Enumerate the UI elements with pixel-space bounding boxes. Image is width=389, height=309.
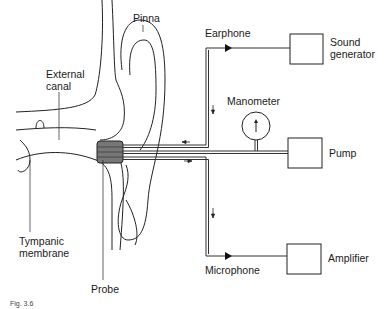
probe-label: Probe bbox=[91, 283, 119, 295]
amplifier-label: Amplifier bbox=[328, 252, 369, 264]
pinna-inner bbox=[130, 40, 156, 150]
pump-label: Pump bbox=[329, 147, 356, 159]
earphone-marker bbox=[225, 44, 232, 52]
earphone-label: Earphone bbox=[205, 27, 251, 39]
neck-front bbox=[96, 160, 112, 250]
microphone-label: Microphone bbox=[205, 264, 260, 276]
canal-lower bbox=[16, 153, 96, 161]
sound-generator-label-2: generator bbox=[330, 48, 375, 60]
manometer-label: Manometer bbox=[227, 95, 280, 107]
pinna-outer bbox=[118, 20, 165, 240]
tympanic-label-1: Tympanic bbox=[19, 235, 64, 247]
external-canal-label-2: canal bbox=[46, 80, 71, 92]
amplifier-box bbox=[287, 244, 321, 274]
pump-box bbox=[288, 138, 322, 168]
sound-generator-box bbox=[290, 34, 323, 64]
ear-outline-inner bbox=[100, 0, 124, 140]
figure-caption: Fig. 3.6 bbox=[10, 300, 33, 307]
tympanic-label-2: membrane bbox=[19, 247, 69, 259]
sound-generator-label-1: Sound bbox=[330, 36, 360, 48]
pinna-label: Pinna bbox=[133, 12, 160, 24]
tympanic-bulge bbox=[36, 121, 44, 129]
external-canal-label-1: External bbox=[46, 68, 85, 80]
canal-upper bbox=[16, 128, 96, 130]
microphone-marker bbox=[225, 252, 232, 260]
